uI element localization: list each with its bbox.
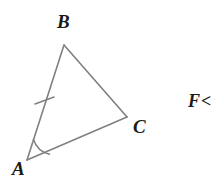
geometry-figure: B A C F< xyxy=(0,0,220,185)
vertex-label-b: B xyxy=(57,12,70,31)
triangle-outline xyxy=(27,45,127,160)
triangle-diagram-svg xyxy=(0,0,220,185)
side-AC xyxy=(27,117,127,160)
vertex-label-a: A xyxy=(12,159,25,178)
side-BC xyxy=(64,45,127,117)
cropped-edge-text: F< xyxy=(188,92,220,110)
tick-mark-icon xyxy=(35,97,54,104)
vertex-label-c: C xyxy=(133,117,146,136)
congruence-tick-mark-side-AB xyxy=(35,97,54,104)
side-AB xyxy=(27,45,64,160)
